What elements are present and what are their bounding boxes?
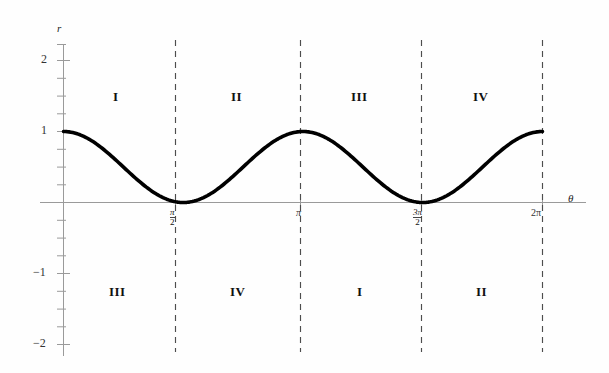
x-tick-pi-over-2-numerator: π bbox=[169, 208, 176, 217]
chart-canvas: r θ 2 1 −1 −2 π 2 π 3π 2 2π I II III IV … bbox=[0, 0, 609, 373]
plot-svg bbox=[0, 0, 609, 373]
x-tick-label-3pi-over-2: 3π 2 bbox=[412, 208, 423, 228]
data-curve bbox=[64, 132, 543, 203]
region-label-top-1: I bbox=[113, 90, 119, 103]
region-label-top-2: II bbox=[231, 90, 242, 103]
x-tick-label-pi: π bbox=[296, 208, 301, 218]
x-tick-label-pi-over-2: π 2 bbox=[169, 208, 176, 228]
y-tick-label-minus-2: −2 bbox=[33, 337, 46, 349]
y-tick-label-2: 2 bbox=[41, 53, 47, 65]
region-label-top-3: III bbox=[351, 90, 368, 103]
y-tick-label-1: 1 bbox=[41, 124, 47, 136]
region-label-bottom-4: II bbox=[476, 285, 487, 298]
r-axis-label: r bbox=[57, 23, 61, 34]
dashed-divider-lines bbox=[176, 40, 543, 352]
x-tick-3pi-over-2-numerator: 3π bbox=[412, 208, 423, 217]
region-label-bottom-3: I bbox=[357, 285, 363, 298]
region-label-top-4: IV bbox=[473, 90, 488, 103]
x-tick-3pi-over-2-denominator: 2 bbox=[412, 218, 423, 227]
theta-axis-label: θ bbox=[568, 193, 573, 204]
x-tick-pi-over-2-denominator: 2 bbox=[169, 218, 176, 227]
x-tick-label-2pi: 2π bbox=[531, 208, 541, 218]
region-label-bottom-1: III bbox=[109, 285, 126, 298]
region-label-bottom-2: IV bbox=[230, 285, 245, 298]
y-tick-label-minus-1: −1 bbox=[33, 266, 46, 278]
